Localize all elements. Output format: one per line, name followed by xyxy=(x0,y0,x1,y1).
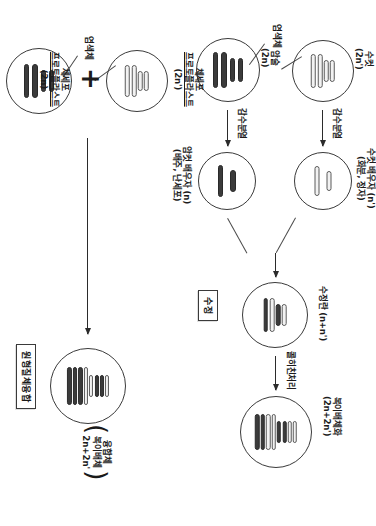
chromosome-group-male-parent xyxy=(311,54,335,88)
plus-sign: + xyxy=(78,68,104,90)
chromosome xyxy=(277,421,281,443)
label-protoplast-a-line2: 프로토플라스트 xyxy=(184,52,194,107)
label-amphidiploid: 복이배체화 (2n+2n') xyxy=(321,396,342,436)
chromosome xyxy=(330,60,335,82)
label-colchicine: 콜히친처리 xyxy=(286,351,296,390)
chromosome xyxy=(105,375,109,397)
label-male-gamete-line1: 수컷 배우자 (n') xyxy=(366,148,376,208)
arrow-meiosis-female xyxy=(227,110,228,146)
chromosome xyxy=(89,375,93,397)
chromosome xyxy=(324,60,329,82)
label-protoplast-b-line2: 프로토플라스트 xyxy=(50,52,60,107)
label-zygote: 수정란 (n+n') xyxy=(318,286,328,341)
chromosome-group-female-parent xyxy=(213,52,243,88)
label-amphidiploid-line2: (2n+2n') xyxy=(322,396,332,436)
panel-protoplast-fusion: 염색체 체세포 프로토플라스트 (2n') + 체세포 프로토플라스트 (2n) xyxy=(0,0,182,526)
chromosome xyxy=(222,52,228,88)
chromosome xyxy=(213,52,219,88)
label-fusion-product-line3: 2n+2n' xyxy=(81,435,91,469)
label-protoplast-a-line1: 체세포 xyxy=(194,68,204,91)
label-protoplast-b-line1: 체세포 xyxy=(60,68,70,91)
chromosome xyxy=(138,71,143,91)
label-male-gamete: 수컷 배우자 (n') (화분, 정자) xyxy=(355,148,376,208)
chromosome xyxy=(282,304,287,326)
chromosome xyxy=(67,367,71,405)
chromosome xyxy=(100,375,104,397)
chromosome xyxy=(282,421,286,443)
label-male-parent-line1: 수컷 xyxy=(364,51,374,67)
label-meiosis-female: 감수분열 xyxy=(237,108,247,139)
label-female-parent: 암술 (2n) xyxy=(259,48,280,67)
chromosome-group-zygote xyxy=(263,298,286,332)
cell-fusion-product xyxy=(50,348,126,424)
arrow-fertilization xyxy=(275,253,276,277)
chromosome xyxy=(276,304,281,326)
label-fusion-product-line2: 복이배체 xyxy=(92,436,102,468)
chromosome xyxy=(318,54,323,88)
chromosome xyxy=(231,170,237,192)
chromosome xyxy=(78,367,82,405)
fertilization-branch-upper xyxy=(276,218,296,253)
panel-sexual-hybridization: 염색체 수컷 (2n') 감수분열 수컷 배우자 (n') (화분, 정자) xyxy=(182,0,368,526)
cell-protoplast-a xyxy=(106,50,168,112)
chromosome xyxy=(272,414,276,450)
chromosome-callout-label-bottom: 염색체 xyxy=(84,36,94,59)
chromosome xyxy=(144,71,149,91)
paren-open: ( xyxy=(86,424,107,434)
chromosome xyxy=(84,367,88,405)
label-male-parent-line2: (2n') xyxy=(354,48,364,70)
label-female-gamete-line1: 암컷 배우자 (n) xyxy=(182,146,192,204)
arrow-colchicine xyxy=(275,356,276,390)
chromosome xyxy=(266,414,270,450)
cell-female-gamete xyxy=(198,152,256,210)
chromosome xyxy=(230,58,235,82)
chromosome xyxy=(327,171,332,191)
chromosome xyxy=(293,421,297,443)
chromosome-callout-label-top: 염색체 xyxy=(272,24,282,47)
chromosome xyxy=(270,298,275,332)
cell-male-parent xyxy=(292,40,354,102)
chromosome xyxy=(125,65,130,97)
label-female-parent-line2: (2n) xyxy=(260,48,270,67)
arrow-fusion xyxy=(87,138,88,334)
cell-amphidiploid xyxy=(240,396,312,468)
label-fusion-product-line1: 융합체 xyxy=(102,440,112,464)
chromosome xyxy=(95,375,99,397)
chromosome xyxy=(132,65,137,97)
cell-male-gamete xyxy=(294,152,352,210)
label-meiosis-male: 감수분열 xyxy=(332,108,342,139)
label-protoplast-b-line3: (2n) xyxy=(39,70,49,89)
chromosome xyxy=(24,64,30,98)
boxed-label-fertilization: 수정 xyxy=(198,290,218,321)
arrow-meiosis-male xyxy=(322,110,323,146)
label-male-gamete-line2: (화분, 정자) xyxy=(356,156,366,201)
boxed-label-protoplast-fusion: 원형질체융합 xyxy=(16,344,36,409)
label-fusion-product-text: 융합체 복이배체 2n+2n' xyxy=(81,435,112,469)
chromosome xyxy=(261,414,265,450)
label-male-parent: 수컷 (2n') xyxy=(353,48,374,70)
chromosome-group-fusion-product xyxy=(67,367,109,405)
paren-close: ) xyxy=(86,470,107,480)
chromosome xyxy=(311,54,316,88)
label-protoplast-a: 체세포 프로토플라스트 (2n') xyxy=(173,52,204,107)
fertilization-branch-lower xyxy=(227,218,247,253)
chromosome-group-protoplast-a xyxy=(125,65,149,97)
label-female-parent-line1: 암술 xyxy=(270,50,280,66)
chromosome-group-female-gamete xyxy=(218,165,236,197)
label-amphidiploid-line1: 복이배체화 xyxy=(332,397,342,436)
chromosome xyxy=(263,298,268,332)
label-fusion-product: ( 융합체 복이배체 2n+2n' ) xyxy=(81,424,112,480)
chromosome xyxy=(218,165,224,197)
chromosome-group-male-gamete xyxy=(315,166,332,196)
chromosome-group-amphidiploid xyxy=(255,414,297,450)
label-protoplast-b: 체세포 프로토플라스트 (2n) xyxy=(39,52,70,107)
chromosome xyxy=(288,421,292,443)
chromosome xyxy=(255,414,259,450)
cell-female-parent xyxy=(196,38,260,102)
chromosome xyxy=(238,58,243,82)
cell-zygote xyxy=(242,282,308,348)
chromosome xyxy=(73,367,77,405)
chromosome xyxy=(33,64,39,98)
chromosome xyxy=(315,166,320,196)
